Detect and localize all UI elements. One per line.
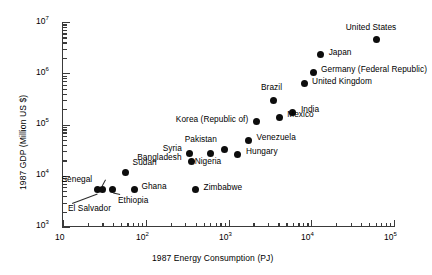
leader-line bbox=[113, 192, 120, 195]
data-point bbox=[270, 97, 277, 104]
y-tick bbox=[63, 89, 67, 90]
y-tick bbox=[63, 129, 67, 130]
x-tick bbox=[210, 223, 211, 227]
y-tick bbox=[63, 27, 67, 28]
x-tick bbox=[127, 223, 128, 227]
x-tick bbox=[311, 220, 312, 226]
x-tick-label-1e2: 102 bbox=[136, 232, 149, 242]
x-tick bbox=[286, 223, 287, 227]
data-point bbox=[373, 36, 380, 43]
x-axis-line bbox=[62, 226, 395, 227]
x-tick-label-1e3: 103 bbox=[219, 232, 232, 242]
point-label: Syria bbox=[163, 143, 182, 153]
y-tick bbox=[63, 73, 70, 74]
x-tick bbox=[225, 223, 226, 227]
data-point bbox=[234, 151, 241, 158]
x-tick bbox=[133, 223, 134, 227]
point-label-callout: Ethiopia bbox=[118, 195, 148, 205]
y-tick-label-1e3: 103 bbox=[36, 220, 49, 230]
y-tick bbox=[63, 37, 67, 38]
x-tick bbox=[307, 223, 308, 227]
x-tick bbox=[268, 223, 269, 227]
data-point bbox=[253, 118, 260, 125]
x-tick bbox=[88, 223, 89, 227]
x-tick-label-10: 10 bbox=[55, 232, 64, 242]
data-point bbox=[94, 186, 101, 193]
x-tick bbox=[171, 223, 172, 227]
data-point bbox=[301, 80, 308, 87]
point-label: Japan bbox=[329, 47, 352, 57]
point-label: Pakistan bbox=[185, 134, 217, 144]
x-tick bbox=[369, 223, 370, 227]
x-tick-label-1e5: 105 bbox=[384, 232, 397, 242]
y-tick bbox=[63, 24, 67, 25]
x-tick bbox=[196, 223, 197, 227]
data-point bbox=[276, 114, 283, 121]
y-tick bbox=[63, 187, 67, 188]
y-tick bbox=[63, 191, 67, 192]
y-tick bbox=[63, 33, 67, 34]
y-tick bbox=[63, 203, 67, 204]
y-tick bbox=[63, 78, 67, 79]
x-tick bbox=[121, 223, 122, 227]
y-tick bbox=[63, 212, 67, 213]
y-tick bbox=[63, 151, 67, 152]
x-tick bbox=[394, 220, 395, 226]
y-tick bbox=[63, 76, 67, 77]
y-tick bbox=[63, 81, 67, 82]
x-tick bbox=[216, 223, 217, 227]
x-tick bbox=[386, 223, 387, 227]
x-tick bbox=[113, 223, 114, 227]
y-tick bbox=[63, 125, 70, 126]
data-point bbox=[317, 51, 324, 58]
x-tick bbox=[278, 223, 279, 227]
point-label: Germany (Federal Republic) bbox=[321, 64, 427, 74]
x-tick bbox=[185, 223, 186, 227]
x-tick bbox=[293, 223, 294, 227]
x-tick-label-1e4: 104 bbox=[301, 232, 314, 242]
x-tick bbox=[376, 223, 377, 227]
x-tick bbox=[336, 223, 337, 227]
point-label: Zimbabwe bbox=[204, 182, 243, 192]
point-label: Nigeria bbox=[195, 156, 222, 166]
y-tick bbox=[63, 30, 67, 31]
x-tick bbox=[303, 223, 304, 227]
y-tick bbox=[63, 109, 67, 110]
y-tick bbox=[63, 58, 67, 59]
y-tick-label-1e5: 105 bbox=[36, 118, 49, 128]
x-tick bbox=[63, 220, 64, 226]
y-tick bbox=[63, 227, 70, 228]
x-tick bbox=[351, 223, 352, 227]
point-label: Hungary bbox=[246, 146, 278, 156]
x-tick bbox=[390, 223, 391, 227]
data-point bbox=[186, 150, 193, 157]
point-label: Brazil bbox=[261, 82, 282, 92]
data-point bbox=[122, 169, 129, 176]
y-tick bbox=[63, 85, 67, 86]
point-label: Korea (Republic of) bbox=[176, 114, 248, 124]
data-point bbox=[131, 186, 138, 193]
data-point bbox=[310, 69, 317, 76]
data-point bbox=[192, 186, 199, 193]
x-tick bbox=[298, 223, 299, 227]
scatter-chart: 107 106 105 104 103 10 102 103 104 105 1… bbox=[0, 0, 432, 275]
x-tick bbox=[220, 223, 221, 227]
point-label: Mexico bbox=[287, 109, 314, 119]
x-tick bbox=[361, 223, 362, 227]
x-tick bbox=[253, 223, 254, 227]
y-tick bbox=[63, 145, 67, 146]
y-tick bbox=[63, 132, 67, 133]
y-axis-title: 1987 GDP (Million US $) bbox=[18, 95, 28, 190]
x-tick bbox=[381, 223, 382, 227]
y-tick bbox=[63, 22, 70, 23]
y-tick bbox=[63, 94, 67, 95]
x-tick bbox=[142, 223, 143, 227]
y-tick bbox=[63, 42, 67, 43]
y-tick-label-1e6: 106 bbox=[36, 67, 49, 77]
data-point bbox=[245, 137, 252, 144]
point-label: Venezuela bbox=[257, 132, 296, 142]
x-axis-title: 1987 Energy Consumption (PJ) bbox=[152, 253, 273, 263]
y-tick bbox=[63, 160, 67, 161]
y-tick bbox=[63, 127, 67, 128]
point-label: Senegal bbox=[61, 174, 92, 184]
